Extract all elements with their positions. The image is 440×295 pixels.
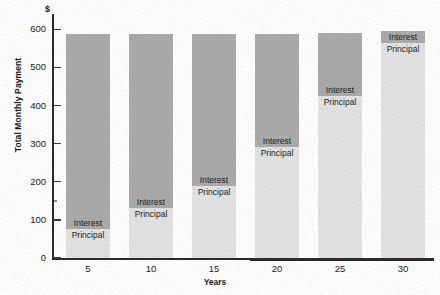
bar-segment-principal: Principal [318, 96, 362, 258]
y-axis-tick-label: 600 [2, 23, 46, 34]
y-axis-tick-label: 500 [2, 61, 46, 72]
bar-segment-interest: Interest [129, 34, 173, 209]
x-axis-tick-label: 5 [68, 263, 108, 274]
bar-segment-principal: Principal [129, 208, 173, 258]
y-axis-tick-label: 300 [2, 138, 46, 149]
y-axis-tick-label: 400 [2, 100, 46, 111]
bar-segment-interest: Interest [255, 34, 299, 148]
y-axis-tick [54, 219, 61, 220]
bar-10-years: InterestPrincipal [129, 34, 173, 258]
y-axis-tick [54, 181, 61, 182]
y-axis-minor-tick [54, 200, 57, 201]
y-axis-tick-label: 200 [2, 176, 46, 187]
y-axis-tick-label: 0 [2, 252, 46, 263]
bar-label-principal: Principal [66, 230, 110, 240]
bar-15-years: InterestPrincipal [192, 34, 236, 258]
stacked-bar-chart: Total Monthly Payment $ 0100200300400500… [0, 0, 440, 295]
bar-label-principal: Principal [255, 148, 299, 158]
x-axis-title: Years [0, 277, 440, 287]
x-axis-title-text: Years [204, 277, 227, 287]
bar-5-years: InterestPrincipal [66, 34, 110, 258]
x-axis-tick-label: 15 [194, 263, 234, 274]
bar-segment-principal: Principal [255, 147, 299, 258]
y-axis-tick [54, 29, 61, 30]
currency-symbol: $ [36, 4, 50, 14]
bar-segment-principal: Principal [66, 229, 110, 258]
x-axis-tick-label: 20 [257, 263, 297, 274]
bar-30-years: InterestPrincipal [381, 31, 425, 258]
bar-segment-principal: Principal [381, 43, 425, 258]
x-axis-tick-label: 30 [383, 263, 423, 274]
bar-label-interest: Interest [129, 197, 173, 207]
bar-label-interest: Interest [192, 175, 236, 185]
bar-25-years: InterestPrincipal [318, 33, 362, 258]
bar-label-principal: Principal [192, 187, 236, 197]
x-axis-tick-label: 25 [320, 263, 360, 274]
bar-segment-interest: Interest [192, 34, 236, 186]
bar-label-interest: Interest [66, 218, 110, 228]
bar-label-interest: Interest [381, 32, 425, 42]
y-axis-tick [54, 67, 61, 68]
y-axis-tick [54, 257, 61, 258]
bar-label-principal: Principal [381, 44, 425, 54]
bar-segment-principal: Principal [192, 186, 236, 258]
bar-segment-interest: Interest [318, 33, 362, 96]
bar-label-interest: Interest [318, 85, 362, 95]
bar-label-principal: Principal [318, 97, 362, 107]
bar-label-interest: Interest [255, 136, 299, 146]
bar-label-principal: Principal [129, 209, 173, 219]
y-axis-tick-label: 100 [2, 214, 46, 225]
y-axis-line [52, 14, 54, 260]
bar-segment-interest: Interest [66, 34, 110, 230]
y-axis-tick [54, 143, 61, 144]
bar-20-years: InterestPrincipal [255, 34, 299, 258]
x-axis-tick-label: 10 [131, 263, 171, 274]
y-axis-tick [54, 105, 61, 106]
x-axis-line-thickening [250, 259, 434, 261]
bar-segment-interest: Interest [381, 31, 425, 42]
